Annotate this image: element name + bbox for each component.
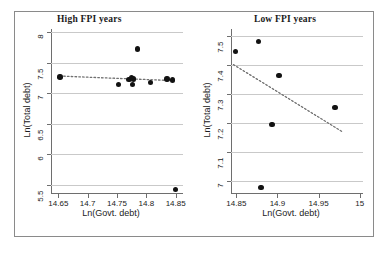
x-axis-tick-label: 14.85: [166, 199, 186, 208]
y-axis-title-high-fpi: Ln(Total debt): [22, 60, 32, 160]
scatter-point: [57, 74, 62, 79]
y-axis-tick-label: 7.5: [216, 42, 225, 53]
scatter-point: [276, 73, 281, 78]
x-axis-tick-label: 14.85: [226, 199, 246, 208]
x-axis-tick: [360, 194, 361, 198]
x-axis-tick: [146, 194, 147, 198]
figure-frame: High FPI years 5.566.577.5814.6514.714.7…: [14, 11, 374, 237]
panel-title-low-fpi: Low FPI years: [195, 14, 375, 24]
y-axis-tick-label: 5.5: [36, 190, 45, 201]
x-axis-tick-label: 14.8: [139, 199, 155, 208]
scatter-point: [135, 46, 140, 51]
x-axis-tick: [236, 194, 237, 198]
trend-line: [231, 29, 363, 194]
x-axis-tick: [319, 194, 320, 198]
y-axis-tick-label-wrap: 7: [44, 93, 45, 94]
y-axis-tick-label: 7: [216, 183, 225, 187]
y-axis-tick-label-wrap: 7: [224, 181, 225, 182]
x-axis-title-low-fpi: Ln(Govt. debt): [201, 208, 381, 218]
x-axis-tick-label: 14.95: [309, 199, 329, 208]
figure-container: High FPI years 5.566.577.5814.6514.714.7…: [0, 0, 387, 255]
y-axis-tick-label: 7.5: [36, 68, 45, 79]
y-axis-tick-label-wrap: 7.5: [44, 63, 45, 64]
y-axis-tick-label: 6.5: [36, 129, 45, 140]
y-axis-tick-label-wrap: 7.3: [224, 94, 225, 95]
y-axis-tick-label-wrap: 6.5: [44, 124, 45, 125]
y-axis-tick-label: 7.2: [216, 129, 225, 140]
scatter-point: [269, 122, 274, 127]
scatter-point: [258, 185, 263, 190]
y-axis-title-low-fpi: Ln(Total debt): [202, 60, 212, 160]
scatter-point: [131, 76, 136, 81]
panel-high-fpi: High FPI years 5.566.577.5814.6514.714.7…: [15, 12, 195, 238]
y-axis-tick-label-wrap: 5.5: [44, 185, 45, 186]
x-axis-tick: [277, 194, 278, 198]
y-axis-tick-label-wrap: 7.1: [224, 152, 225, 153]
y-axis-tick-label-wrap: 7.2: [224, 123, 225, 124]
y-axis-tick-label-wrap: 7.4: [224, 65, 225, 66]
y-axis-tick-label: 6: [36, 156, 45, 160]
y-axis-tick-label: 7.1: [216, 158, 225, 169]
x-axis-title-high-fpi: Ln(Govt. debt): [21, 208, 201, 218]
y-axis-tick-label: 7.3: [216, 100, 225, 111]
scatter-point: [170, 77, 175, 82]
scatter-point: [116, 82, 121, 87]
y-axis-tick-label: 7: [36, 95, 45, 99]
x-axis-tick: [58, 194, 59, 198]
y-axis-tick-label: 7.4: [216, 71, 225, 82]
x-axis-tick: [117, 194, 118, 198]
panel-low-fpi: Low FPI years 77.17.27.37.47.514.8514.91…: [195, 12, 375, 238]
y-axis-tick-label-wrap: 6: [44, 154, 45, 155]
x-axis-tick-label: 14.65: [48, 199, 68, 208]
y-axis-tick-label-wrap: 7.5: [224, 36, 225, 37]
x-axis-tick-label: 14.7: [80, 199, 96, 208]
x-axis-tick-label: 14.9: [270, 199, 286, 208]
x-axis-tick: [176, 194, 177, 198]
plot-area-high-fpi: 5.566.577.5814.6514.714.7514.814.85: [51, 29, 183, 194]
x-axis-tick: [88, 194, 89, 198]
y-axis-tick-label-wrap: 8: [44, 32, 45, 33]
y-axis-tick-label: 8: [36, 34, 45, 38]
x-axis-tick-label: 15: [355, 199, 364, 208]
x-axis-tick-label: 14.75: [107, 199, 127, 208]
plot-area-low-fpi: 77.17.27.37.47.514.8514.914.9515: [231, 29, 363, 194]
trend-line: [51, 29, 183, 194]
